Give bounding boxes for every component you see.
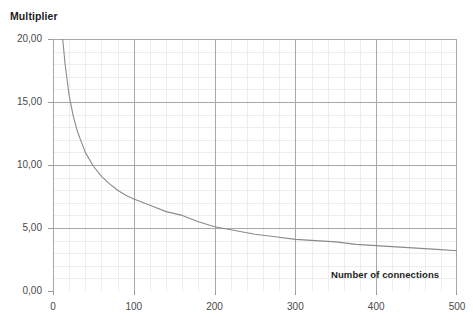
y-axis-title: Multiplier [10, 10, 58, 22]
multiplier-vs-connections-chart: Multiplier Number of connections 0,005,0… [0, 0, 473, 332]
x-tick-label: 100 [114, 301, 154, 312]
x-tick-label: 0 [33, 301, 73, 312]
data-curve [53, 39, 457, 291]
x-tick-mark [53, 291, 54, 295]
x-axis-title: Number of connections [331, 269, 439, 280]
plot-area [53, 39, 457, 291]
x-tick-label: 500 [437, 301, 473, 312]
x-tick-mark [376, 291, 377, 295]
y-tick-label: 10,00 [0, 159, 42, 170]
y-tick-label: 0,00 [0, 285, 42, 296]
y-tick-label: 20,00 [0, 33, 42, 44]
x-tick-mark [456, 291, 457, 295]
x-tick-mark [134, 291, 135, 295]
x-tick-label: 200 [195, 301, 235, 312]
y-tick-label: 5,00 [0, 222, 42, 233]
x-tick-mark [295, 291, 296, 295]
x-tick-label: 300 [275, 301, 315, 312]
x-tick-label: 400 [356, 301, 396, 312]
x-tick-mark [215, 291, 216, 295]
y-tick-label: 15,00 [0, 96, 42, 107]
